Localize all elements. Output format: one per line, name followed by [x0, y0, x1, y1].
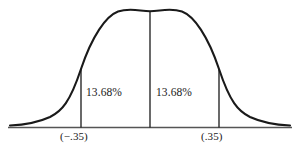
normal-curve-figure: 13.68% 13.68% (−.35) (.35)	[0, 0, 296, 150]
z-tick-label-right: (.35)	[201, 130, 223, 142]
area-label-left: 13.68%	[86, 86, 122, 98]
z-tick-label-left: (−.35)	[60, 130, 88, 142]
distribution-plot	[0, 0, 296, 150]
area-label-right: 13.68%	[156, 86, 192, 98]
